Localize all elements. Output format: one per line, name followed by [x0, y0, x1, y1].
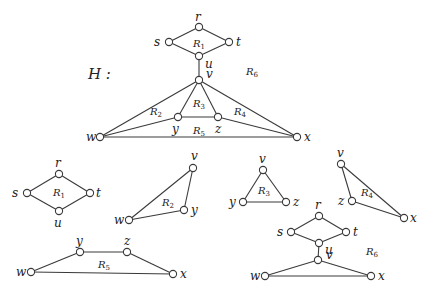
vertex-z: [282, 198, 289, 205]
vertex-r: [55, 170, 62, 177]
edge-v-x: [318, 260, 371, 276]
vertex-label-v: v: [326, 248, 333, 262]
vertex-label-v: v: [337, 146, 344, 160]
vertex-label-t: t: [236, 35, 241, 49]
vertex-w: [261, 272, 268, 279]
graph-r4: R4vzx: [337, 146, 417, 225]
graph-h-title: H :: [87, 65, 111, 83]
vertex-v: [314, 256, 321, 263]
vertex-w: [27, 268, 34, 275]
vertex-y: [76, 248, 83, 255]
vertex-label-y: y: [190, 203, 198, 217]
vertex-x: [293, 133, 300, 140]
vertex-label-x: x: [304, 130, 311, 144]
region-label-r2: R2: [149, 106, 162, 119]
region-label-r4: R4: [233, 106, 247, 119]
edge-r-s: [291, 216, 319, 232]
edge-t-u: [319, 232, 346, 243]
vertex-t: [86, 189, 93, 196]
vertex-v: [259, 166, 266, 173]
vertex-label-t: t: [353, 225, 358, 239]
vertex-v: [337, 160, 344, 167]
vertex-label-s: s: [154, 35, 160, 49]
region-label-r6: R6: [245, 66, 259, 79]
vertex-z: [123, 248, 130, 255]
vertex-label-u: u: [54, 216, 62, 230]
edge-v-x: [341, 164, 404, 218]
vertex-label-w: w: [250, 269, 261, 283]
planar-graph-diagram: H : R1R6R3R2R4R5rstuvyzwxR1rstuR2vwyR3vy…: [0, 0, 433, 297]
vertex-label-t: t: [96, 186, 101, 200]
vertex-t: [342, 228, 349, 235]
region-label-r3: R3: [192, 98, 205, 111]
vertex-label-y: y: [75, 234, 83, 248]
vertex-s: [287, 228, 294, 235]
vertex-u: [195, 52, 202, 59]
vertex-x: [367, 272, 374, 279]
vertex-label-w: w: [86, 130, 97, 144]
vertex-label-w: w: [16, 265, 27, 279]
vertex-label-y: y: [228, 195, 236, 209]
vertex-label-r: r: [315, 198, 322, 212]
edge-z-x: [352, 201, 404, 218]
vertex-w: [96, 133, 103, 140]
edge-w-y: [129, 210, 184, 220]
region-label-r5: R5: [192, 125, 205, 138]
vertex-u: [55, 207, 62, 214]
edge-r-t: [199, 27, 229, 42]
vertex-y: [174, 113, 181, 120]
vertex-t: [225, 38, 232, 45]
vertex-label-z: z: [123, 234, 131, 248]
vertex-y: [239, 198, 246, 205]
graph-r6: R6rstuvwx: [250, 198, 385, 283]
vertex-z: [214, 113, 221, 120]
vertex-label-z: z: [292, 195, 300, 209]
region-label-r6: R6: [365, 246, 379, 259]
vertex-x: [169, 270, 176, 277]
vertex-label-z: z: [337, 194, 345, 208]
edge-w-y: [31, 252, 80, 272]
edge-w-x: [31, 272, 173, 274]
graph-r2: R2vwy: [114, 149, 198, 227]
graph-r5: R5yzwx: [16, 234, 187, 281]
vertex-label-v: v: [206, 67, 213, 81]
vertex-r: [195, 23, 202, 30]
vertex-s: [23, 189, 30, 196]
vertex-label-x: x: [378, 269, 385, 283]
vertex-label-x: x: [410, 211, 417, 225]
edge-r-t: [59, 174, 90, 193]
vertex-label-r: r: [195, 10, 202, 24]
vertex-y: [180, 206, 187, 213]
edge-r-t: [319, 216, 346, 232]
vertex-w: [125, 216, 132, 223]
vertex-u: [315, 239, 322, 246]
vertex-x: [400, 214, 407, 221]
region-label-r2: R2: [161, 197, 174, 210]
graph-r3: R3vyz: [228, 152, 300, 209]
graph-h: R1R6R3R2R4R5rstuvyzwx: [86, 10, 311, 144]
vertex-label-s: s: [12, 186, 18, 200]
vertex-label-v: v: [191, 149, 198, 163]
vertex-z: [348, 197, 355, 204]
region-label-r1: R1: [52, 187, 65, 200]
vertex-label-r: r: [55, 156, 62, 170]
vertex-label-z: z: [214, 122, 222, 136]
edge-s-u: [291, 232, 319, 243]
vertex-label-s: s: [277, 225, 283, 239]
edge-w-y: [100, 117, 178, 137]
region-label-r5: R5: [97, 259, 110, 272]
vertex-v: [195, 76, 202, 83]
region-label-r3: R3: [257, 185, 270, 198]
vertex-label-x: x: [180, 267, 187, 281]
region-label-r1: R1: [192, 38, 205, 51]
vertex-s: [165, 38, 172, 45]
region-label-r4: R4: [360, 187, 374, 200]
vertex-label-y: y: [171, 122, 179, 136]
vertex-label-v: v: [259, 152, 266, 166]
vertex-label-w: w: [114, 213, 125, 227]
graph-r1: R1rstu: [12, 156, 101, 230]
vertex-v: [189, 164, 196, 171]
vertex-r: [315, 212, 322, 219]
edge-z-x: [218, 117, 297, 137]
edge-z-x: [127, 252, 173, 274]
